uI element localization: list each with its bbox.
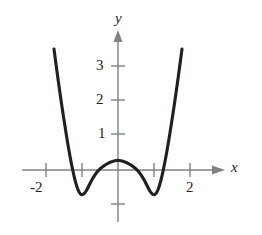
- y-tick-label-3: 3: [96, 58, 104, 73]
- graph-figure: y x 3 2 1 -2 2: [0, 0, 262, 235]
- x-axis-arrowhead: [212, 166, 225, 175]
- coordinate-plot: [0, 0, 262, 235]
- y-tick-label-1: 1: [98, 126, 106, 141]
- y-axis-label: y: [115, 11, 122, 26]
- y-axis-arrowhead: [114, 30, 123, 42]
- y-tick-label-2: 2: [96, 92, 104, 107]
- x-tick-label-neg-2: -2: [30, 180, 43, 195]
- x-axis-label: x: [231, 160, 238, 175]
- x-tick-label-2: 2: [186, 180, 194, 195]
